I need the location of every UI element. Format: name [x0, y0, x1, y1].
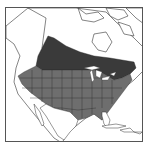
- caribbean-islands: [102, 124, 142, 134]
- map-frame: [5, 7, 143, 142]
- range-map: [6, 8, 143, 142]
